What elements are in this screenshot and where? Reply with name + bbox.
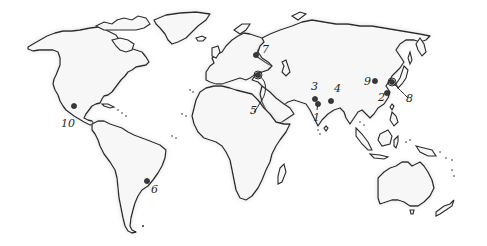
sumatra — [356, 128, 372, 150]
novaya-zemlya — [292, 12, 306, 20]
marker-label-7: 7 — [262, 43, 269, 56]
caribbean-islands — [117, 89, 194, 117]
iceland — [196, 36, 206, 41]
sulawesi — [394, 136, 398, 148]
marker-label-6: 6 — [151, 183, 158, 196]
new-zealand — [436, 200, 454, 216]
sakhalin — [408, 52, 412, 64]
borneo — [378, 130, 392, 146]
marker-label-2: 2 — [377, 91, 385, 104]
marker-label-9: 9 — [364, 75, 371, 88]
sri-lanka — [324, 126, 328, 131]
new-guinea — [416, 146, 436, 156]
falklands — [142, 225, 144, 227]
world-map: 1 2 3 4 5 6 7 8 9 10 — [0, 0, 487, 246]
tasmania — [410, 210, 414, 214]
scandinavia-north — [234, 24, 250, 34]
australia — [378, 162, 434, 206]
philippines — [390, 112, 398, 126]
taiwan — [390, 104, 394, 110]
arctic-islands — [96, 16, 150, 30]
cuba — [102, 104, 114, 108]
marker-label-3: 3 — [311, 80, 318, 93]
madagascar — [278, 164, 286, 184]
marker-label-5: 5 — [250, 104, 257, 117]
java — [370, 154, 388, 159]
south-america — [92, 121, 166, 233]
marker-label-8: 8 — [406, 92, 413, 105]
marker-label-4: 4 — [333, 82, 341, 95]
marker-label-1: 1 — [313, 111, 320, 124]
marker-label-10: 10 — [61, 117, 75, 130]
